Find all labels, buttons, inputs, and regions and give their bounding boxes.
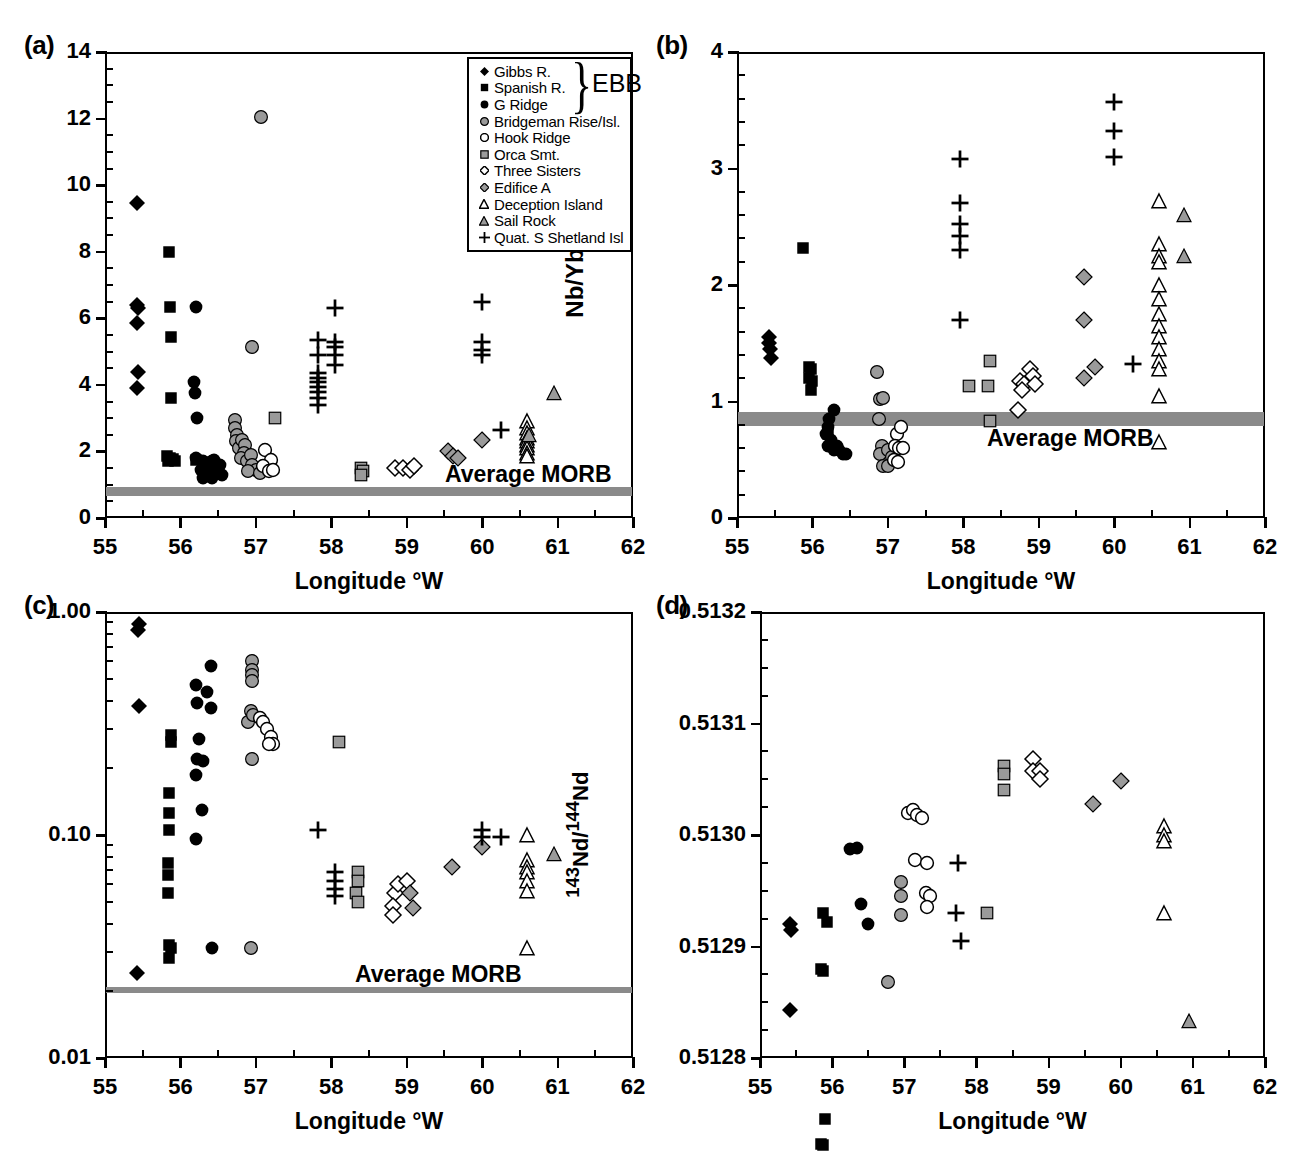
y-minor-tick-d bbox=[761, 806, 768, 808]
x-tick-d bbox=[759, 1057, 762, 1068]
x-tick-label-a: 57 bbox=[216, 534, 296, 560]
data-point bbox=[1152, 388, 1167, 403]
data-point bbox=[130, 364, 146, 380]
data-point bbox=[262, 737, 276, 751]
data-point bbox=[385, 907, 401, 923]
y-tick-a bbox=[96, 384, 107, 387]
morb-annotation-c: Average MORB bbox=[355, 961, 522, 988]
x-minor-tick-b bbox=[1000, 510, 1002, 518]
legend-item-label: Hook Ridge bbox=[494, 130, 570, 145]
data-point bbox=[245, 752, 259, 766]
data-point bbox=[915, 811, 929, 825]
y-minor-tick-d bbox=[761, 750, 768, 752]
x-minor-tick-d bbox=[1156, 1050, 1158, 1058]
data-point bbox=[1076, 269, 1092, 285]
y-minor-tick-d bbox=[761, 862, 768, 864]
legend-item-orca[interactable]: Orca Smt. bbox=[474, 146, 624, 163]
data-point bbox=[818, 1112, 832, 1126]
x-minor-tick-a bbox=[519, 510, 521, 518]
x-tick-c bbox=[481, 1057, 484, 1068]
data-point bbox=[783, 922, 799, 938]
x-tick-label-c: 61 bbox=[518, 1074, 598, 1100]
y-minor-tick-a bbox=[106, 284, 113, 286]
data-point bbox=[1152, 278, 1167, 293]
y-minor-tick-b bbox=[738, 354, 745, 356]
y-tick-a bbox=[96, 51, 107, 54]
legend-item-hook[interactable]: Hook Ridge bbox=[474, 129, 624, 146]
legend-item-deception[interactable]: Deception Island bbox=[474, 196, 624, 213]
x-tick-d bbox=[975, 1057, 978, 1068]
data-point bbox=[244, 941, 258, 955]
y-tick-a bbox=[96, 251, 107, 254]
data-point bbox=[450, 450, 466, 466]
data-point bbox=[474, 432, 490, 448]
legend-item-sisters[interactable]: Three Sisters bbox=[474, 163, 624, 180]
data-point bbox=[161, 886, 175, 900]
x-tick-a bbox=[104, 517, 107, 528]
y-axis-label-d: 143Nd/144Nd bbox=[562, 705, 593, 965]
data-point bbox=[130, 300, 146, 316]
data-point bbox=[215, 468, 229, 482]
data-point bbox=[474, 293, 491, 310]
y-minor-tick-b bbox=[738, 261, 745, 263]
y-minor-tick-c bbox=[106, 700, 113, 702]
x-minor-tick-a bbox=[217, 510, 219, 518]
data-point bbox=[820, 915, 834, 929]
data-point bbox=[474, 346, 491, 363]
y-minor-tick-a bbox=[106, 367, 113, 369]
x-tick-a bbox=[481, 517, 484, 528]
legend-item-edifice[interactable]: Edifice A bbox=[474, 179, 624, 196]
legend-item-quat[interactable]: Quat. S Shetland Isl bbox=[474, 229, 624, 246]
data-point bbox=[951, 311, 968, 328]
x-tick-a bbox=[406, 517, 409, 528]
y-tick-a bbox=[96, 450, 107, 453]
data-point bbox=[190, 696, 204, 710]
legend-item-bridgeman[interactable]: Bridgeman Rise/Isl. bbox=[474, 113, 624, 130]
legend-item-gridge[interactable]: G Ridge bbox=[474, 96, 624, 113]
legend-item-label: Orca Smt. bbox=[494, 147, 560, 162]
x-tick-label-d: 58 bbox=[936, 1074, 1016, 1100]
x-tick-label-b: 59 bbox=[999, 534, 1079, 560]
data-point bbox=[474, 828, 491, 845]
data-point bbox=[309, 346, 326, 363]
y-minor-tick-a bbox=[106, 84, 113, 86]
y-minor-tick-a bbox=[106, 101, 113, 103]
data-point bbox=[891, 455, 905, 469]
y-minor-tick-b bbox=[738, 447, 745, 449]
y-minor-tick-c bbox=[106, 869, 113, 871]
data-point bbox=[997, 783, 1011, 797]
y-minor-tick-b bbox=[738, 121, 745, 123]
x-tick-d bbox=[1192, 1057, 1195, 1068]
y-tick-label-a: 12 bbox=[0, 105, 91, 131]
y-minor-tick-a bbox=[106, 334, 113, 336]
x-tick-label-c: 55 bbox=[65, 1074, 145, 1100]
y-minor-tick-b bbox=[738, 307, 745, 309]
y-minor-tick-b bbox=[738, 331, 745, 333]
x-minor-tick-a bbox=[368, 510, 370, 518]
x-minor-tick-d bbox=[867, 1050, 869, 1058]
x-tick-a bbox=[255, 517, 258, 528]
morb-annotation-b: Average MORB bbox=[987, 425, 1154, 452]
legend-item-label: Three Sisters bbox=[494, 163, 581, 178]
x-tick-label-d: 61 bbox=[1153, 1074, 1233, 1100]
data-point bbox=[164, 330, 178, 344]
data-point bbox=[189, 300, 203, 314]
data-point bbox=[951, 195, 968, 212]
data-point bbox=[131, 698, 147, 714]
y-minor-tick-c bbox=[106, 856, 113, 858]
x-tick-label-c: 59 bbox=[367, 1074, 447, 1100]
x-axis-label-d: Longitude °W bbox=[863, 1108, 1163, 1135]
x-minor-tick-c bbox=[217, 1050, 219, 1058]
data-point bbox=[164, 391, 178, 405]
y-tick-label-d: 0.5128 bbox=[630, 1044, 746, 1070]
x-tick-b bbox=[1113, 517, 1116, 528]
legend-item-sail[interactable]: Sail Rock bbox=[474, 212, 624, 229]
data-point bbox=[1152, 254, 1167, 269]
y-minor-tick-d bbox=[761, 667, 768, 669]
data-point bbox=[129, 965, 145, 981]
data-point bbox=[162, 245, 176, 259]
data-point bbox=[962, 379, 976, 393]
open-triangle-icon bbox=[474, 199, 494, 209]
x-tick-d bbox=[831, 1057, 834, 1068]
data-point bbox=[327, 888, 344, 905]
